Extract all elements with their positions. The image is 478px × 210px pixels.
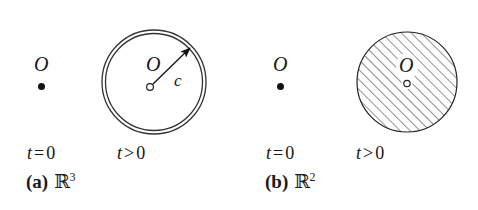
caption-tag-b: (b) bbox=[265, 171, 288, 192]
time-value-a-initial: 0 bbox=[46, 143, 55, 163]
shell-outer-circle bbox=[102, 30, 206, 134]
caption-exponent-b: 2 bbox=[310, 170, 316, 184]
caption-tag-a: (a) bbox=[26, 171, 48, 192]
shell-inner-circle bbox=[106, 34, 203, 131]
time-label-a-initial: t=0 bbox=[27, 144, 55, 162]
time-value-b-initial: 0 bbox=[285, 143, 294, 163]
caption-space-b: ℝ bbox=[294, 170, 309, 192]
time-label-a-evolved: t>0 bbox=[117, 144, 145, 162]
panel-b-r2: O O t=0 t>0 (b)ℝ2 bbox=[239, 0, 478, 210]
origin-open-dot-a bbox=[147, 84, 154, 91]
time-op-b-evolved: > bbox=[363, 143, 373, 163]
time-label-b-initial: t=0 bbox=[266, 144, 294, 162]
time-var-a-initial: t bbox=[27, 143, 32, 163]
panel-a-r3: O O c t=0 t>0 bbox=[0, 0, 239, 210]
time-label-b-evolved: t>0 bbox=[356, 144, 384, 162]
figure-root: O O c t=0 t>0 bbox=[0, 0, 478, 210]
time-var-b-initial: t bbox=[266, 143, 271, 163]
time-op-a-initial: = bbox=[34, 143, 44, 163]
time-value-b-evolved: 0 bbox=[375, 143, 384, 163]
time-var-b-evolved: t bbox=[356, 143, 361, 163]
origin-label-b-evolved: O bbox=[399, 55, 413, 75]
caption-exponent-a: 3 bbox=[69, 170, 75, 184]
origin-label-a-evolved: O bbox=[146, 54, 160, 74]
time-value-a-evolved: 0 bbox=[136, 143, 145, 163]
speed-label-c: c bbox=[174, 72, 182, 89]
time-op-b-initial: = bbox=[273, 143, 283, 163]
origin-open-dot-b bbox=[404, 80, 410, 86]
caption-space-a: ℝ bbox=[54, 170, 69, 192]
caption-panel-a: (a)ℝ3 bbox=[26, 171, 75, 191]
caption-panel-b: (b)ℝ2 bbox=[265, 171, 316, 191]
time-var-a-evolved: t bbox=[117, 143, 122, 163]
time-op-a-evolved: > bbox=[124, 143, 134, 163]
